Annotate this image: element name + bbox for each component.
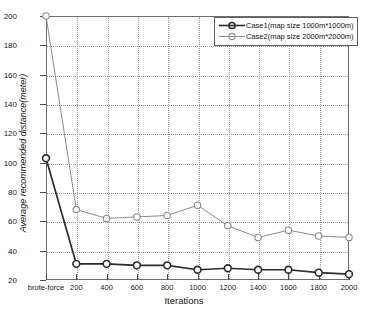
x-tick-label: 800: [161, 283, 174, 292]
x-tick-label: 1200: [219, 283, 236, 292]
x-tick-label: 1600: [280, 283, 297, 292]
x-tick-mark: [349, 274, 350, 280]
y-tick-mark: [40, 251, 46, 252]
x-tick-label: brute-force: [28, 283, 64, 292]
grid-line-horizontal: [47, 134, 348, 135]
y-tick-mark: [40, 75, 46, 76]
y-axis-label: Average recommended distance(meter): [18, 53, 28, 253]
chart-legend: Case1(map size 1000m*1000m) Case2(map si…: [214, 17, 358, 46]
x-tick-label: 1400: [250, 283, 267, 292]
x-tick-mark: [228, 274, 229, 280]
grid-line-vertical: [229, 17, 230, 279]
grid-line-vertical: [77, 17, 78, 279]
x-tick-label: 200: [70, 283, 83, 292]
grid-line-vertical: [108, 17, 109, 279]
legend-sample-case1: [218, 20, 246, 31]
legend-label-case2: Case2(map size 2000m*2000m): [246, 31, 354, 42]
y-tick-label: 60: [0, 217, 17, 226]
grid-line-vertical: [320, 17, 321, 279]
grid-line-vertical: [289, 17, 290, 279]
y-tick-label: 40: [0, 246, 17, 255]
y-tick-mark: [40, 221, 46, 222]
y-tick-mark: [40, 104, 46, 105]
grid-line-horizontal: [47, 252, 348, 253]
x-tick-label: 400: [100, 283, 113, 292]
x-tick-label: 2000: [341, 283, 358, 292]
x-axis-label: Iterations: [0, 295, 368, 306]
legend-label-case1: Case1(map size 1000m*1000m): [246, 20, 354, 31]
y-tick-mark: [40, 163, 46, 164]
y-tick-label: 160: [0, 70, 17, 79]
x-tick-mark: [76, 274, 77, 280]
x-tick-mark: [107, 274, 108, 280]
y-tick-mark: [40, 16, 46, 17]
grid-line-horizontal: [47, 164, 348, 165]
grid-line-horizontal: [47, 76, 348, 77]
legend-sample-case2: [218, 31, 246, 42]
x-tick-mark: [198, 274, 199, 280]
y-tick-label: 120: [0, 129, 17, 138]
grid-line-horizontal: [47, 222, 348, 223]
plot-area: [46, 16, 349, 280]
chart-figure: 20406080100120140160180200 brute-force20…: [0, 0, 368, 315]
grid-line-vertical: [168, 17, 169, 279]
x-tick-mark: [137, 274, 138, 280]
x-tick-label: 1800: [310, 283, 327, 292]
grid-line-vertical: [259, 17, 260, 279]
y-tick-label: 20: [0, 276, 17, 285]
x-tick-mark: [319, 274, 320, 280]
grid-line-vertical: [199, 17, 200, 279]
y-tick-mark: [40, 280, 46, 281]
y-tick-mark: [40, 45, 46, 46]
y-tick-mark: [40, 133, 46, 134]
grid-line-horizontal: [47, 105, 348, 106]
x-tick-mark: [288, 274, 289, 280]
legend-item-case2: Case2(map size 2000m*2000m): [218, 31, 354, 42]
grid-line-vertical: [138, 17, 139, 279]
grid-line-horizontal: [47, 193, 348, 194]
y-tick-label: 80: [0, 188, 17, 197]
y-tick-label: 100: [0, 158, 17, 167]
y-tick-label: 180: [0, 41, 17, 50]
x-tick-mark: [258, 274, 259, 280]
x-tick-mark: [167, 274, 168, 280]
legend-item-case1: Case1(map size 1000m*1000m): [218, 20, 354, 31]
y-tick-label: 200: [0, 12, 17, 21]
y-tick-mark: [40, 192, 46, 193]
grid-line-horizontal: [47, 46, 348, 47]
y-tick-label: 140: [0, 100, 17, 109]
x-tick-mark: [46, 274, 47, 280]
x-tick-label: 1000: [189, 283, 206, 292]
x-tick-label: 600: [131, 283, 144, 292]
